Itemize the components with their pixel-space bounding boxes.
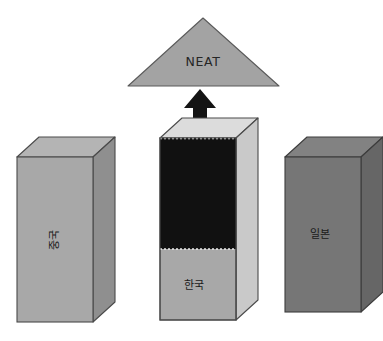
neat-label: NEAT [186,54,221,69]
pillar-korea[interactable]: 한국 [160,118,258,320]
pillar-diagram: NEAT 중국 [0,0,383,341]
pillar-korea-fill-region [160,138,236,249]
pillar-korea-side-face [236,118,258,320]
pillar-china[interactable]: 중국 [17,137,115,322]
pillar-korea-label: 한국 [184,279,204,292]
pillar-china-label: 중국 [48,230,61,250]
diagram-canvas: NEAT 중국 [0,0,383,341]
pillar-china-side-face [93,137,115,322]
neat-triangle-group[interactable]: NEAT [128,18,279,86]
neat-triangle-shape [128,18,279,86]
pillar-japan-label: 일본 [310,227,330,241]
pillar-japan-side-face [361,137,383,312]
pillar-japan[interactable]: 일본 [285,137,383,312]
